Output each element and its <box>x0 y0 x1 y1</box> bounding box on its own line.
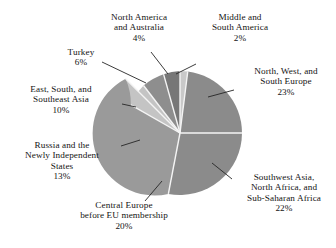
label-percent: 4% <box>84 33 194 43</box>
label-line-1: Southwest Asia, <box>254 172 315 182</box>
label-line-3: States <box>51 161 74 171</box>
label-line-1: North, West, and <box>254 66 317 76</box>
label-line-1: Central Europe <box>95 200 152 210</box>
label-north-america-australia: North America and Australia 4% <box>84 12 194 43</box>
label-line-2: South America <box>212 22 268 32</box>
label-line-2: North Africa, and <box>251 182 317 192</box>
label-line-2: Newly Independent <box>25 150 99 160</box>
label-percent: 22% <box>232 203 336 213</box>
label-percent: 13% <box>2 171 122 181</box>
label-line-1: Russia and the <box>35 140 90 150</box>
slice-southwest-asia-north-africa[interactable] <box>168 133 242 195</box>
label-line-1: Turkey <box>68 47 95 57</box>
label-east-south-southeast-asia: East, South, and Southeast Asia 10% <box>0 84 124 115</box>
label-middle-south-america: Middle and South America 2% <box>188 12 292 43</box>
label-line-1: Middle and <box>218 12 261 22</box>
label-line-2: South Europe <box>260 76 311 86</box>
label-percent: 2% <box>188 33 292 43</box>
label-central-europe: Central Europe before EU membership 20% <box>52 200 196 231</box>
label-line-2: and Australia <box>114 22 164 32</box>
slice-north-west-south-europe[interactable] <box>180 71 242 133</box>
label-percent: 23% <box>236 87 336 97</box>
label-percent: 20% <box>52 221 196 231</box>
label-line-1: North America <box>111 12 167 22</box>
label-turkey: Turkey 6% <box>44 47 118 68</box>
leader-line-north-america-australia <box>151 52 168 74</box>
label-percent: 6% <box>44 57 118 67</box>
label-north-west-south-europe: North, West, and South Europe 23% <box>236 66 336 97</box>
label-southwest-asia-north-africa: Southwest Asia, North Africa, and Sub-Sa… <box>232 172 336 214</box>
label-line-3: Sub-Saharan Africa <box>247 193 321 203</box>
pie-chart-figure: North America and Australia 4% Middle an… <box>0 0 336 248</box>
label-russia-newly-independent-states: Russia and the Newly Independent States … <box>2 140 122 182</box>
label-line-2: Southeast Asia <box>33 94 89 104</box>
label-percent: 10% <box>0 105 124 115</box>
label-line-1: East, South, and <box>30 84 91 94</box>
label-line-2: before EU membership <box>80 210 168 220</box>
